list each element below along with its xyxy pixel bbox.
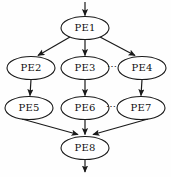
node-pe5-label: PE5	[19, 102, 40, 113]
node-pe1-label: PE1	[75, 22, 96, 33]
node-pe6-label: PE6	[75, 102, 96, 113]
edge-pe7-to-pe8	[93, 119, 148, 135]
task-graph-diagram: PE1 PE2 PE3 PE4 PE5 PE6	[0, 0, 171, 177]
row2-ellipsis-icon: ⋯	[107, 61, 118, 72]
diagram-canvas: PE1 PE2 PE3 PE4 PE5 PE6	[0, 0, 171, 177]
ellipsis-layer: ⋯ ⋯	[106, 61, 118, 112]
edge-pe5-to-pe8	[22, 119, 78, 135]
node-pe8-label: PE8	[75, 142, 96, 153]
edge-pe1-to-pe4	[100, 37, 135, 56]
node-pe3-label: PE3	[75, 62, 96, 73]
node-pe2-label: PE2	[21, 62, 42, 73]
node-pe7[interactable]: PE7	[117, 97, 165, 120]
node-pe5[interactable]: PE5	[5, 97, 53, 120]
node-pe3[interactable]: PE3	[61, 57, 109, 80]
node-pe4-label: PE4	[132, 62, 153, 73]
edge-pe4-to-pe7	[141, 80, 142, 96]
edge-pe1-to-pe2	[38, 37, 70, 56]
edge-pe2-to-pe5	[30, 80, 31, 96]
node-pe1[interactable]: PE1	[61, 17, 109, 40]
node-pe6[interactable]: PE6	[61, 97, 109, 120]
node-pe7-label: PE7	[131, 102, 152, 113]
node-pe4[interactable]: PE4	[118, 57, 166, 80]
node-pe2[interactable]: PE2	[7, 57, 55, 80]
row3-ellipsis-icon: ⋯	[106, 101, 117, 112]
node-pe8[interactable]: PE8	[61, 137, 109, 160]
